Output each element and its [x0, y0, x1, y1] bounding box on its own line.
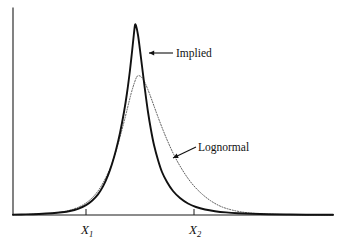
annotation-implied: Implied [149, 47, 212, 60]
x-axis-ticks-group [86, 209, 194, 215]
x-axis-label-x1: X1 [80, 222, 93, 239]
annotation-lognormal: Lognormal [173, 141, 249, 158]
axes-group [13, 8, 333, 215]
x-axis-label-x2: X2 [188, 222, 202, 239]
annotation-arrow-head-implied [149, 51, 154, 56]
annotation-label-implied: Implied [176, 47, 212, 60]
distribution-chart-figure: ImpliedLognormal X1X2 [0, 0, 341, 242]
annotation-label-lognormal: Lognormal [198, 141, 249, 154]
x-axis-label-subscript-x1: 1 [89, 229, 93, 239]
x-axis-label-subscript-x2: 2 [197, 229, 202, 239]
x-axis-labels-group: X1X2 [80, 222, 202, 239]
annotations-group: ImpliedLognormal [149, 47, 249, 158]
lognormal-density-curve [13, 76, 333, 215]
chart-svg: ImpliedLognormal X1X2 [0, 0, 341, 242]
